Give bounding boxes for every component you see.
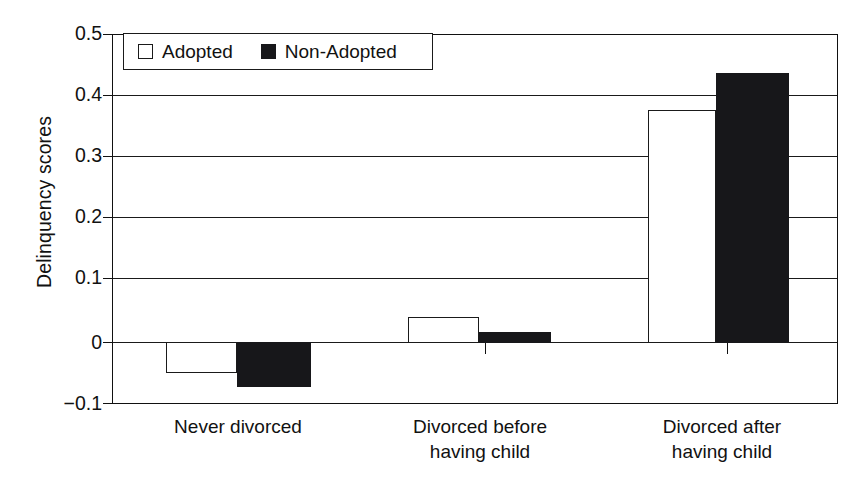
bar-adopted-never-divorced: [166, 342, 237, 373]
bar-non-adopted-never-divorced: [237, 342, 311, 387]
y-tick-mark-0.3: [103, 156, 112, 157]
x-category-line1-1: Never divorced: [174, 416, 302, 437]
x-category-label-never-divorced: Never divorced: [117, 414, 359, 439]
bar-adopted-divorced-before: [408, 317, 479, 343]
y-tick-mark-0.5: [103, 34, 112, 35]
x-category-label-divorced-after: Divorced after having child: [601, 414, 843, 464]
x-category-line2-3: having child: [601, 439, 843, 464]
x-category-label-divorced-before: Divorced before having child: [359, 414, 601, 464]
legend-swatch-filled-square-icon: [261, 44, 276, 59]
y-tick-label-0.5: 0.5: [44, 24, 102, 44]
legend-entry-non-adopted: Non-Adopted: [261, 42, 397, 61]
y-tick-label-0.4: 0.4: [44, 85, 102, 105]
y-tick-mark--0.1: [103, 403, 112, 404]
x-category-line2-2: having child: [359, 439, 601, 464]
chart-legend: Adopted Non-Adopted: [123, 33, 433, 70]
x-category-line1-3: Divorced after: [663, 416, 781, 437]
x-axis-category-labels: Never divorced Divorced before having ch…: [112, 414, 838, 484]
bar-non-adopted-divorced-after: [716, 73, 789, 343]
plot-area: [112, 34, 838, 404]
legend-label-non-adopted: Non-Adopted: [285, 42, 397, 61]
y-axis-tick-labels: 0.5 0.4 0.3 0.2 0.1 0 −0.1: [40, 0, 102, 485]
legend-entry-adopted: Adopted: [138, 42, 233, 61]
y-tick-label--0.1: −0.1: [44, 394, 102, 414]
legend-swatch-open-square-icon: [138, 44, 153, 59]
y-tick-label-0.3: 0.3: [44, 146, 102, 166]
x-tick-mark-2: [485, 343, 486, 354]
legend-label-adopted: Adopted: [162, 42, 233, 61]
bar-non-adopted-divorced-before: [479, 332, 551, 343]
y-tick-label-0.1: 0.1: [44, 268, 102, 288]
x-category-line1-2: Divorced before: [413, 416, 547, 437]
y-tick-mark-0: [103, 342, 112, 343]
y-tick-mark-0.4: [103, 95, 112, 96]
y-tick-label-0.2: 0.2: [44, 207, 102, 227]
y-tick-label-0: 0: [44, 333, 102, 353]
delinquency-scores-bar-chart: Delinquency scores 0.5 0.4 0.3 0.2 0.1 0…: [0, 0, 861, 485]
bar-adopted-divorced-after: [648, 110, 716, 343]
y-tick-mark-0.1: [103, 278, 112, 279]
x-tick-mark-3: [727, 343, 728, 354]
y-tick-mark-0.2: [103, 217, 112, 218]
